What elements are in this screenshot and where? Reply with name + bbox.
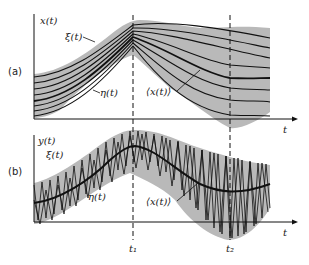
xi-pointer-a	[83, 37, 95, 42]
eta-pointer-a	[93, 90, 100, 93]
stochastic-trajectories-figure: x(t) ξ(t) η(t) ⟨x(t)⟩ (a) t y(t) ξ(t) η(…	[0, 0, 309, 265]
panel-b: y(t) ξ(t) η(t) ⟨x(t)⟩ (b) t	[8, 130, 298, 240]
t1-label: t₁	[129, 243, 137, 254]
panel-b-t-label: t	[283, 227, 288, 238]
t2-label: t₂	[226, 243, 234, 254]
panel-a-mean-label: ⟨x(t)⟩	[146, 86, 171, 97]
panel-a-label: (a)	[8, 66, 22, 77]
panel-a: x(t) ξ(t) η(t) ⟨x(t)⟩ (a) t	[8, 14, 298, 135]
panel-b-y-label: y(t)	[37, 135, 56, 146]
panel-a-xi-label: ξ(t)	[65, 31, 82, 42]
panel-b-eta-label: η(t)	[88, 191, 106, 202]
panel-b-label: (b)	[8, 166, 22, 177]
panel-a-t-label: t	[283, 124, 288, 135]
panel-b-xi-label: ξ(t)	[46, 149, 63, 160]
panel-a-y-label: x(t)	[40, 15, 58, 26]
panel-b-x-arrow-icon	[292, 220, 298, 225]
panel-a-eta-label: η(t)	[100, 87, 118, 98]
panel-a-x-arrow-icon	[292, 117, 298, 122]
panel-b-mean-label: ⟨x(t)⟩	[146, 196, 171, 207]
